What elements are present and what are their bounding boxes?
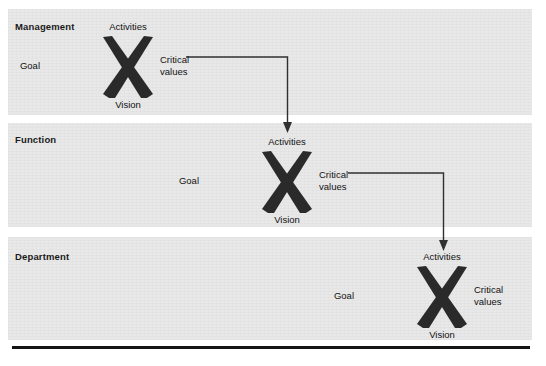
x-label-critical-values: Critical values (474, 284, 503, 307)
x-label-vision: Vision (115, 99, 141, 111)
band-label-management: Management (15, 21, 75, 32)
bottom-rule (12, 346, 530, 349)
band-label-function: Function (15, 134, 56, 145)
x-label-vision: Vision (429, 329, 455, 341)
band-label-department: Department (15, 251, 69, 262)
x-label-goal: Goal (334, 290, 354, 302)
x-mark-icon (414, 265, 470, 329)
x-label-activities: Activities (268, 136, 305, 148)
x-label-activities: Activities (109, 21, 146, 33)
x-label-critical-values-line1: Critical (319, 169, 348, 181)
x-label-vision: Vision (274, 214, 300, 226)
x-label-critical-values-line1: Critical (160, 54, 189, 66)
x-label-goal: Goal (179, 175, 199, 187)
x-label-critical-values-line2: values (319, 181, 348, 193)
diagram-canvas: Management Activities Goal Critical valu… (0, 0, 546, 366)
x-label-activities: Activities (423, 251, 460, 263)
x-label-critical-values: Critical values (319, 169, 348, 192)
x-label-critical-values-line2: values (160, 66, 189, 78)
x-mark-icon (259, 150, 315, 214)
x-label-critical-values-line2: values (474, 296, 503, 308)
connector-function-to-department (348, 172, 458, 254)
x-label-goal: Goal (20, 60, 40, 72)
x-mark-icon (100, 35, 156, 99)
connector-management-to-function (186, 56, 298, 136)
x-label-critical-values-line1: Critical (474, 284, 503, 296)
x-label-critical-values: Critical values (160, 54, 189, 77)
